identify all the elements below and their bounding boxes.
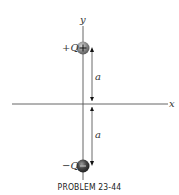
distance-label-bottom: a: [95, 130, 101, 140]
negative-charge-label: −Q: [62, 161, 79, 171]
arrowhead-down-icon: [90, 97, 94, 101]
x-axis-label: x: [169, 99, 175, 109]
figure-caption: PROBLEM 23-44: [13, 182, 165, 192]
distance-label-top: a: [95, 72, 101, 82]
figure-canvas: y x +Q −Q a a PROBLEM 23-44: [0, 0, 179, 195]
arrowhead-down-icon: [90, 161, 94, 166]
arrowhead-up-icon: [90, 107, 94, 111]
arrowhead-up-icon: [90, 47, 94, 52]
y-axis-label: y: [80, 15, 86, 25]
positive-charge-label: +Q: [62, 43, 79, 53]
dipole-diagram: [0, 0, 179, 195]
